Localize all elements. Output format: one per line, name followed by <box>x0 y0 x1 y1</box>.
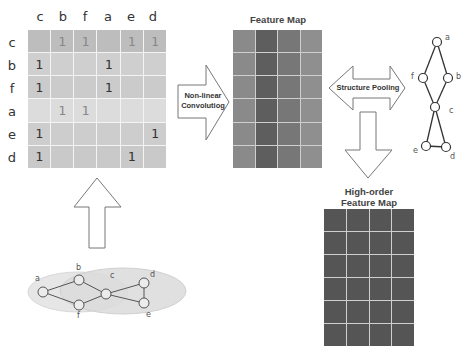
feature-map-cell <box>233 123 255 145</box>
feature-map-cell <box>233 30 255 52</box>
feature-map-cell <box>301 30 323 52</box>
feature-map-cell <box>278 30 300 52</box>
convolution-label: Non-linear Convolutiog <box>176 91 230 111</box>
high-order-map-cell <box>324 324 346 346</box>
high-order-title-line1: High-order <box>324 186 414 197</box>
feature-map-cell <box>233 99 255 121</box>
high-order-map-cell <box>392 209 414 231</box>
feature-map-title: Feature Map <box>233 14 323 25</box>
feature-map-cell <box>301 76 323 98</box>
high-order-map-cell <box>347 255 369 277</box>
convolution-label-line1: Non-linear <box>176 91 230 101</box>
pooled-graph-nodes <box>419 38 453 152</box>
input-label-c: c <box>110 271 114 280</box>
high-order-feature-map <box>324 209 414 346</box>
feature-map-cell <box>278 53 300 75</box>
feature-map-cell <box>278 123 300 145</box>
pooled-label-f: f <box>411 72 414 81</box>
feature-map-cell <box>301 123 323 145</box>
pooled-label-a: a <box>445 33 450 42</box>
feature-map-cell <box>278 76 300 98</box>
high-order-map-cell <box>324 209 346 231</box>
high-order-map-cell <box>370 278 392 300</box>
high-order-map-cell <box>370 324 392 346</box>
feature-map-cell <box>256 99 278 121</box>
graph-node-a <box>38 287 48 297</box>
pooled-node-b <box>444 74 453 83</box>
pooled-node-a <box>433 38 442 47</box>
pooled-node-c <box>431 103 440 112</box>
feature-map-cell <box>301 146 323 168</box>
feature-map-cell <box>256 146 278 168</box>
high-order-map-cell <box>392 232 414 254</box>
feature-map <box>233 30 322 168</box>
high-order-map-cell <box>392 324 414 346</box>
high-order-map-title: High-order Feature Map <box>324 186 414 208</box>
down-arrow-icon <box>345 112 392 178</box>
pooled-graph-edges <box>423 42 448 147</box>
pooled-node-f <box>419 74 428 83</box>
feature-map-cell <box>233 146 255 168</box>
high-order-map-cell <box>370 232 392 254</box>
feature-map-cell <box>256 30 278 52</box>
graph-node-c <box>101 289 111 299</box>
feature-map-cell <box>256 53 278 75</box>
input-label-b: b <box>76 263 81 272</box>
high-order-map-cell <box>324 232 346 254</box>
pooled-node-e <box>422 142 431 151</box>
feature-map-cell <box>233 76 255 98</box>
high-order-map-cell <box>347 209 369 231</box>
graph-node-f <box>74 300 84 310</box>
feature-map-cell <box>278 99 300 121</box>
high-order-map-cell <box>324 301 346 323</box>
graph-node-d <box>139 278 149 288</box>
feature-map-cell <box>256 123 278 145</box>
pooled-label-d: d <box>450 152 455 161</box>
feature-map-cell <box>301 53 323 75</box>
high-order-map-cell <box>347 278 369 300</box>
high-order-title-line2: Feature Map <box>324 197 414 208</box>
convolution-label-line2: Convolutiog <box>176 101 230 111</box>
high-order-map-cell <box>392 255 414 277</box>
pooling-label: Structure Pooling <box>331 83 405 93</box>
input-label-f: f <box>77 311 80 320</box>
pooled-label-c: c <box>449 106 453 115</box>
pooled-label-e: e <box>413 146 418 155</box>
high-order-map-cell <box>392 278 414 300</box>
pooled-label-b: b <box>456 72 461 81</box>
feature-map-cell <box>278 146 300 168</box>
high-order-map-cell <box>370 255 392 277</box>
high-order-map-cell <box>324 255 346 277</box>
high-order-map-cell <box>347 324 369 346</box>
input-label-a: a <box>35 274 40 283</box>
high-order-map-cell <box>370 209 392 231</box>
high-order-map-cell <box>370 301 392 323</box>
feature-map-cell <box>256 76 278 98</box>
feature-map-cell <box>233 53 255 75</box>
high-order-map-cell <box>347 301 369 323</box>
high-order-map-cell <box>347 232 369 254</box>
input-label-d: d <box>150 270 155 279</box>
graph-node-b <box>74 275 84 285</box>
feature-map-cell <box>301 99 323 121</box>
high-order-map-cell <box>324 278 346 300</box>
pooled-node-d <box>442 143 451 152</box>
graph-node-e <box>139 298 149 308</box>
input-label-e: e <box>146 310 151 319</box>
up-arrow-icon <box>74 178 121 248</box>
high-order-map-cell <box>392 301 414 323</box>
